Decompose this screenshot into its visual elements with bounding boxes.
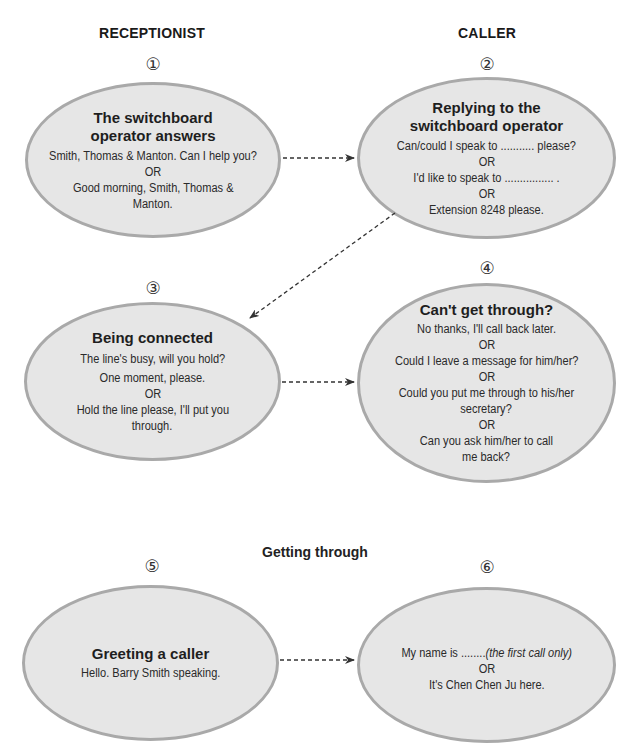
node-title: Greeting a caller [92,645,210,663]
receptionist-header: RECEPTIONIST [99,25,205,41]
node-caller-intro: My name is ........(the first call only)… [357,587,616,743]
step-number-3: ③ [145,278,160,298]
node-line: One moment, please. [100,370,206,386]
node-line: secretary? [461,401,513,417]
name-prefix: My name is ........ [401,646,485,660]
node-line: OR [478,661,495,677]
node-operator-answers: The switchboard operator answers Smith, … [25,82,281,238]
node-line: Can you ask him/her to call [420,433,553,449]
node-line: Smith, Thomas & Manton. Can I help you? [49,148,257,164]
node-line: The line's busy, will you hold? [80,351,225,367]
node-replying-operator: Replying to the switchboard operator Can… [357,77,616,239]
node-line: Can/could I speak to ........... please? [397,138,576,154]
step-number-1: ① [145,54,160,74]
node-line: OR [478,154,495,170]
node-title: Replying to the [432,99,540,117]
step-number-6: ⑥ [479,557,494,577]
node-line: OR [478,337,495,353]
node-line: OR [478,369,495,385]
node-title: switchboard operator [410,117,563,135]
node-title: Can't get through? [420,301,554,319]
node-line: Could you put me through to his/her [399,385,575,401]
node-line: My name is ........(the first call only) [401,645,572,661]
node-line: OR [145,164,162,180]
step-number-4: ④ [479,258,494,278]
node-line: through. [132,418,173,434]
node-line: Good morning, Smith, Thomas & [73,180,234,196]
node-line: Manton. [133,196,173,212]
node-line: OR [478,417,495,433]
node-title: Being connected [92,329,213,347]
node-line: Hold the line please, I'll put you [76,402,228,418]
node-line: It's Chen Chen Ju here. [429,677,545,693]
node-greeting-caller: Greeting a caller Hello. Barry Smith spe… [22,585,279,741]
node-being-connected: Being connected The line's busy, will yo… [24,302,281,461]
name-note: (the first call only) [485,646,572,660]
node-line: No thanks, I'll call back later. [417,321,556,337]
node-cant-get-through: Can't get through? No thanks, I'll call … [357,283,616,483]
caller-header: CALLER [458,25,516,41]
node-title: The switchboard [93,109,212,127]
step-number-2: ② [479,54,494,74]
step-number-5: ⑤ [144,556,159,576]
node-line: OR [144,386,161,402]
node-line: I'd like to speak to ................ . [413,170,559,186]
node-line: Hello. Barry Smith speaking. [81,665,220,681]
node-line: OR [478,186,495,202]
node-line: me back? [463,449,511,465]
node-title: operator answers [90,127,215,145]
arrow-2-to-3 [250,213,395,318]
node-line: Could I leave a message for him/her? [395,353,578,369]
node-line: Extension 8248 please. [429,202,544,218]
getting-through-label: Getting through [262,544,368,560]
